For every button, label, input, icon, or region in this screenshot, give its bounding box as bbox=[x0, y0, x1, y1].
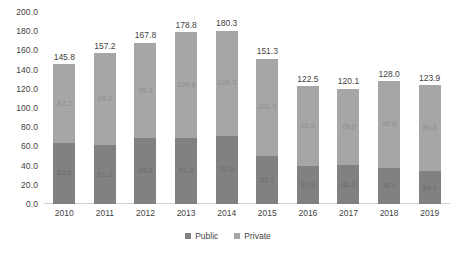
bar-segment-label-public: 61.2 bbox=[94, 171, 116, 179]
bar-group[interactable]: 96.061.2157.2 bbox=[85, 12, 126, 204]
bar-segment-private[interactable]: 90.0 bbox=[378, 81, 400, 167]
bar-group[interactable]: 99.368.5167.8 bbox=[125, 12, 166, 204]
bar-segment-label-private: 109.6 bbox=[175, 81, 197, 89]
x-axis-tick-label: 2013 bbox=[177, 208, 196, 218]
chart-legend: PublicPrivate bbox=[0, 232, 456, 241]
bar-stack[interactable]: 101.150.2 bbox=[256, 59, 278, 204]
bar-total-label: 122.5 bbox=[297, 75, 318, 84]
bar-segment-private[interactable]: 101.1 bbox=[256, 59, 278, 156]
bar-stack[interactable]: 109.669.2 bbox=[175, 32, 197, 204]
legend-swatch-icon bbox=[185, 233, 191, 239]
bar-total-label: 120.1 bbox=[338, 77, 359, 86]
bar-stack[interactable]: 82.263.6 bbox=[53, 64, 75, 204]
bar-segment-public[interactable]: 71.0 bbox=[216, 136, 238, 204]
y-axis-tick-label: 60.0 bbox=[21, 141, 38, 151]
bar-total-label: 167.8 bbox=[135, 31, 156, 40]
bar-segment-label-private: 89.8 bbox=[419, 124, 441, 132]
y-axis-tick-label: 20.0 bbox=[21, 180, 38, 190]
y-axis-tick-label: 160.0 bbox=[16, 45, 38, 55]
bar-segment-label-public: 50.2 bbox=[256, 176, 278, 184]
bar-segment-public[interactable]: 69.2 bbox=[175, 138, 197, 204]
x-axis-tick-label: 2018 bbox=[380, 208, 399, 218]
y-axis-tick-label: 80.0 bbox=[21, 122, 38, 132]
y-axis-tick-label: 140.0 bbox=[16, 65, 38, 75]
bar-stack[interactable]: 82.639.9 bbox=[297, 86, 319, 204]
bar-segment-private[interactable]: 96.0 bbox=[94, 53, 116, 145]
bar-stack[interactable]: 96.061.2 bbox=[94, 53, 116, 204]
bar-segment-private[interactable]: 82.6 bbox=[297, 86, 319, 165]
bar-segment-public[interactable]: 63.6 bbox=[53, 143, 75, 204]
bar-segment-private[interactable]: 89.8 bbox=[419, 85, 441, 171]
x-axis-tick-label: 2010 bbox=[55, 208, 74, 218]
bar-group[interactable]: 79.940.2120.1 bbox=[328, 12, 369, 204]
y-axis-tick-label: 120.0 bbox=[16, 84, 38, 94]
bar-stack[interactable]: 90.038.0 bbox=[378, 81, 400, 204]
bar-segment-label-private: 109.3 bbox=[216, 80, 238, 88]
legend-item[interactable]: Public bbox=[185, 232, 218, 241]
bar-total-label: 157.2 bbox=[94, 42, 115, 51]
bar-segment-private[interactable]: 109.6 bbox=[175, 32, 197, 137]
y-axis-tick-label: 40.0 bbox=[21, 161, 38, 171]
y-axis-tick-label: 0.0 bbox=[26, 199, 38, 209]
bar-segment-public[interactable]: 61.2 bbox=[94, 145, 116, 204]
bar-segment-label-private: 96.0 bbox=[94, 95, 116, 103]
y-axis-tick-label: 200.0 bbox=[16, 7, 38, 17]
bar-segment-public[interactable]: 39.9 bbox=[297, 166, 319, 204]
bar-segment-public[interactable]: 40.2 bbox=[337, 165, 359, 204]
bar-total-label: 123.9 bbox=[419, 74, 440, 83]
x-axis-tick-label: 2016 bbox=[298, 208, 317, 218]
bar-segment-private[interactable]: 109.3 bbox=[216, 31, 238, 136]
bar-segment-public[interactable]: 68.5 bbox=[134, 138, 156, 204]
x-axis-tick-label: 2012 bbox=[136, 208, 155, 218]
bar-group[interactable]: 82.263.6145.8 bbox=[44, 12, 85, 204]
x-axis: 2010201120122013201420152016201720182019 bbox=[44, 206, 450, 226]
x-axis-tick-label: 2017 bbox=[339, 208, 358, 218]
bar-stack[interactable]: 109.371.0 bbox=[216, 31, 238, 204]
x-axis-tick-label: 2015 bbox=[258, 208, 277, 218]
y-axis: 200.0180.0160.0140.0120.0100.080.060.040… bbox=[0, 0, 44, 254]
bar-stack[interactable]: 99.368.5 bbox=[134, 43, 156, 204]
bar-segment-label-private: 79.9 bbox=[337, 123, 359, 131]
bar-segment-private[interactable]: 79.9 bbox=[337, 89, 359, 166]
bar-segment-label-public: 63.6 bbox=[53, 170, 75, 178]
bar-group[interactable]: 82.639.9122.5 bbox=[288, 12, 329, 204]
bar-group[interactable]: 109.669.2178.8 bbox=[166, 12, 207, 204]
legend-label: Public bbox=[195, 232, 218, 241]
x-axis-tick-label: 2014 bbox=[217, 208, 236, 218]
x-axis-tick-label: 2011 bbox=[96, 208, 114, 218]
bar-segment-label-private: 101.1 bbox=[256, 104, 278, 112]
bar-segment-public[interactable]: 38.0 bbox=[378, 168, 400, 204]
bar-segment-public[interactable]: 50.2 bbox=[256, 156, 278, 204]
legend-swatch-icon bbox=[234, 233, 240, 239]
x-axis-tick-label: 2019 bbox=[420, 208, 439, 218]
y-axis-tick-label: 180.0 bbox=[16, 26, 38, 36]
bar-segment-label-private: 82.2 bbox=[53, 100, 75, 108]
bar-stack[interactable]: 89.834.1 bbox=[419, 85, 441, 204]
bar-group[interactable]: 109.371.0180.3 bbox=[206, 12, 247, 204]
bar-segment-label-private: 82.6 bbox=[297, 122, 319, 130]
bar-group[interactable]: 89.834.1123.9 bbox=[409, 12, 450, 204]
bar-segment-label-public: 38.0 bbox=[378, 182, 400, 190]
bar-total-label: 180.3 bbox=[216, 19, 237, 28]
bar-segment-label-public: 71.0 bbox=[216, 166, 238, 174]
y-axis-tick-label: 100.0 bbox=[16, 103, 38, 113]
bar-segment-label-private: 99.3 bbox=[134, 87, 156, 95]
legend-item[interactable]: Private bbox=[234, 232, 270, 241]
bar-segment-label-public: 40.2 bbox=[337, 181, 359, 189]
bar-total-label: 145.8 bbox=[54, 53, 75, 62]
bar-total-label: 178.8 bbox=[175, 21, 196, 30]
bar-stack[interactable]: 79.940.2 bbox=[337, 89, 359, 204]
bar-segment-public[interactable]: 34.1 bbox=[419, 171, 441, 204]
bar-total-label: 151.3 bbox=[257, 47, 278, 56]
bar-segment-label-public: 69.2 bbox=[175, 167, 197, 175]
bar-segment-label-public: 39.9 bbox=[297, 181, 319, 189]
bar-group[interactable]: 90.038.0128.0 bbox=[369, 12, 410, 204]
bar-segment-private[interactable]: 82.2 bbox=[53, 64, 75, 143]
legend-label: Private bbox=[244, 232, 270, 241]
bar-group[interactable]: 101.150.2151.3 bbox=[247, 12, 288, 204]
bar-total-label: 128.0 bbox=[378, 70, 399, 79]
bar-segment-private[interactable]: 99.3 bbox=[134, 43, 156, 138]
bar-segment-label-private: 90.0 bbox=[378, 121, 400, 129]
bar-segment-label-public: 68.5 bbox=[134, 167, 156, 175]
stacked-bar-chart: 200.0180.0160.0140.0120.0100.080.060.040… bbox=[0, 0, 456, 254]
